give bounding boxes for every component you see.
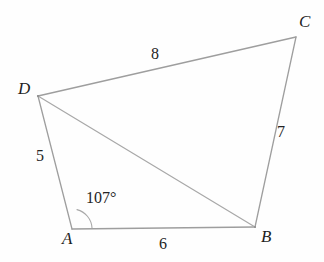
vertex-label-d: D [18,80,30,97]
vertex-dot-b [254,226,256,228]
vertex-label-a: A [62,230,72,247]
segment-ab [72,227,255,229]
vertex-dot-d [37,95,39,97]
angle-label-a: 107° [86,190,116,206]
vertex-label-c: C [299,13,310,30]
segment-cd [38,37,296,96]
side-length-da: 5 [36,148,44,164]
figure-canvas [0,0,324,262]
geometry-figure: A B C D 6 7 8 5 107° [0,0,324,262]
side-length-cd: 8 [151,46,159,62]
vertex-label-b: B [261,228,271,245]
side-length-bc: 7 [277,124,285,140]
segment-bc [255,37,296,227]
side-length-ab: 6 [159,236,167,252]
segment-db-diagonal [38,96,255,227]
angle-arc-a [77,210,92,228]
